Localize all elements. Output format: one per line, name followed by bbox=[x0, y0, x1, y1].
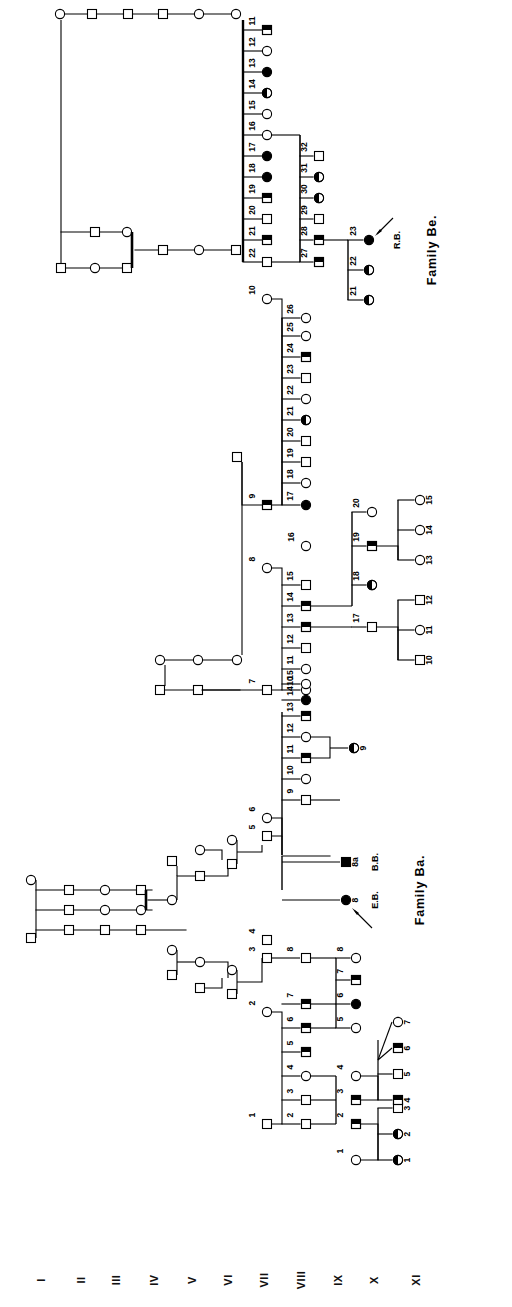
individual-32[interactable] bbox=[315, 152, 324, 161]
individual-18[interactable] bbox=[301, 478, 310, 487]
ancestor-female[interactable] bbox=[26, 875, 35, 884]
individual-12[interactable] bbox=[302, 644, 311, 653]
ancestor-male[interactable] bbox=[137, 886, 146, 895]
ancestor-female[interactable] bbox=[100, 905, 109, 914]
individual-19[interactable] bbox=[368, 542, 377, 551]
ancestor-female[interactable] bbox=[167, 895, 176, 904]
individual-3[interactable] bbox=[302, 1096, 311, 1105]
ancestor-female[interactable] bbox=[100, 885, 109, 894]
individual-30[interactable] bbox=[314, 193, 323, 202]
ancestor-female[interactable] bbox=[231, 9, 240, 18]
individual-15[interactable] bbox=[262, 109, 271, 118]
individual-1[interactable] bbox=[263, 1120, 272, 1129]
individual-5[interactable] bbox=[263, 832, 272, 841]
ancestor-male[interactable] bbox=[196, 872, 205, 881]
ancestor-male[interactable] bbox=[124, 10, 133, 19]
individual-22[interactable] bbox=[263, 258, 272, 267]
ancestor-male[interactable] bbox=[159, 10, 168, 19]
ancestor-female[interactable] bbox=[194, 9, 203, 18]
individual-19[interactable] bbox=[302, 458, 311, 467]
individual-10[interactable] bbox=[262, 294, 271, 303]
individual-12[interactable] bbox=[301, 732, 310, 741]
individual-21[interactable] bbox=[364, 295, 373, 304]
individual-14[interactable] bbox=[302, 602, 311, 611]
individual-6[interactable] bbox=[351, 999, 360, 1008]
ancestor-male[interactable] bbox=[196, 984, 205, 993]
individual-26[interactable] bbox=[301, 313, 310, 322]
individual-8[interactable] bbox=[302, 954, 311, 963]
ancestor-male[interactable] bbox=[232, 246, 241, 255]
individual-31[interactable] bbox=[314, 172, 323, 181]
individual-4[interactable] bbox=[351, 1071, 360, 1080]
ancestor-female[interactable] bbox=[167, 945, 176, 954]
individual-4[interactable] bbox=[301, 1071, 310, 1080]
individual-17[interactable] bbox=[301, 500, 310, 509]
ancestor-female[interactable] bbox=[227, 835, 236, 844]
individual-21[interactable] bbox=[263, 236, 272, 245]
individual-16[interactable] bbox=[262, 130, 271, 139]
individual-22[interactable] bbox=[364, 265, 373, 274]
individual-11[interactable] bbox=[302, 754, 311, 763]
individual-19[interactable] bbox=[263, 194, 272, 203]
individual-17[interactable] bbox=[262, 151, 271, 160]
ancestor-male[interactable] bbox=[194, 686, 203, 695]
individual-11[interactable] bbox=[301, 664, 310, 673]
individual-3[interactable] bbox=[352, 1096, 361, 1105]
ancestor-female[interactable] bbox=[155, 655, 164, 664]
individual-5[interactable] bbox=[351, 1023, 360, 1032]
individual-24[interactable] bbox=[302, 353, 311, 362]
individual-20[interactable] bbox=[263, 215, 272, 224]
ancestor-male[interactable] bbox=[88, 10, 97, 19]
individual-11[interactable] bbox=[263, 26, 272, 35]
individual-2[interactable] bbox=[262, 1007, 271, 1016]
individual-9[interactable] bbox=[302, 796, 311, 805]
individual-18[interactable] bbox=[262, 172, 271, 181]
individual-21[interactable] bbox=[301, 415, 310, 424]
ancestor-male[interactable] bbox=[159, 246, 168, 255]
ancestor-male[interactable] bbox=[65, 906, 74, 915]
ancestor-female[interactable] bbox=[122, 227, 131, 236]
ancestor-male[interactable] bbox=[233, 453, 242, 462]
individual-25[interactable] bbox=[301, 331, 310, 340]
ancestor-male[interactable] bbox=[228, 990, 237, 999]
ancestor-female[interactable] bbox=[90, 263, 99, 272]
ancestor-male[interactable] bbox=[91, 228, 100, 237]
individual-14[interactable] bbox=[301, 695, 310, 704]
individual-5[interactable] bbox=[302, 1048, 311, 1057]
individual-13[interactable] bbox=[302, 623, 311, 632]
individual-15[interactable] bbox=[301, 679, 310, 688]
ancestor-male[interactable] bbox=[156, 686, 165, 695]
individual-8[interactable] bbox=[351, 953, 360, 962]
individual-29[interactable] bbox=[315, 215, 324, 224]
individual-4[interactable] bbox=[263, 936, 272, 945]
individual-9[interactable] bbox=[263, 501, 272, 510]
ancestor-male[interactable] bbox=[228, 860, 237, 869]
individual-17[interactable] bbox=[368, 623, 377, 632]
individual-20[interactable] bbox=[302, 437, 311, 446]
individual-8[interactable] bbox=[262, 563, 271, 572]
ancestor-male[interactable] bbox=[65, 886, 74, 895]
individual-7[interactable] bbox=[302, 1000, 311, 1009]
individual-6[interactable] bbox=[262, 813, 271, 822]
ancestor-female[interactable] bbox=[55, 9, 64, 18]
ancestor-female[interactable] bbox=[193, 655, 202, 664]
individual-20[interactable] bbox=[367, 507, 376, 516]
individual-28[interactable] bbox=[315, 236, 324, 245]
individual-13[interactable] bbox=[302, 712, 311, 721]
individual-14[interactable] bbox=[262, 88, 271, 97]
ancestor-female[interactable] bbox=[195, 845, 204, 854]
individual-7[interactable] bbox=[352, 976, 361, 985]
individual-15[interactable] bbox=[302, 581, 311, 590]
ancestor-male[interactable] bbox=[57, 264, 66, 273]
individual-23[interactable] bbox=[364, 235, 373, 244]
ancestor-male[interactable] bbox=[168, 857, 177, 866]
individual-2[interactable] bbox=[302, 1120, 311, 1129]
ancestor-male[interactable] bbox=[168, 971, 177, 980]
individual-18[interactable] bbox=[367, 580, 376, 589]
individual-7[interactable] bbox=[263, 686, 272, 695]
ancestor-male[interactable] bbox=[137, 926, 146, 935]
ancestor-male[interactable] bbox=[27, 934, 36, 943]
ancestor-male[interactable] bbox=[65, 926, 74, 935]
individual-16[interactable] bbox=[301, 541, 310, 550]
individual-13[interactable] bbox=[262, 67, 271, 76]
